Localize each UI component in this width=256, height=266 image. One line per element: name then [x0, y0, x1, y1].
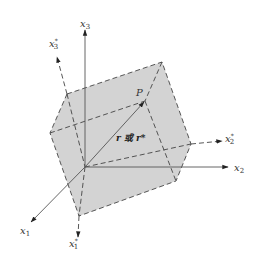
x2-star-axis [191, 141, 222, 144]
x3-star-axis [57, 57, 67, 94]
x2-star-label: x*2 [225, 132, 234, 146]
x2-label: x2 [234, 162, 244, 175]
point-p-label: P [135, 87, 143, 98]
x1-star-axis [78, 216, 79, 237]
parallelepiped-diagram: x3 x*3 x*2 x2 x1 x*1 P r 或 r* [0, 0, 256, 266]
x1-label: x1 [20, 225, 30, 238]
x3-label: x3 [80, 18, 90, 31]
x1-star-label: x*1 [69, 237, 78, 251]
x3-star-label: x*3 [49, 37, 58, 51]
vector-label: r 或 r* [116, 133, 146, 143]
